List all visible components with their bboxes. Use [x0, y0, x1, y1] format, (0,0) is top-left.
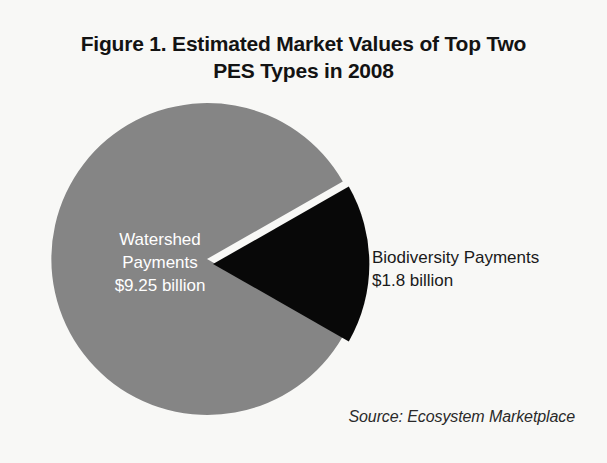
pie-label-biodiversity-name: Biodiversity Payments [372, 246, 539, 269]
figure-container: Figure 1. Estimated Market Values of Top… [0, 0, 607, 463]
pie-label-watershed-name-line2: Payments [85, 251, 235, 274]
pie-label-watershed: Watershed Payments $9.25 billion [85, 228, 235, 297]
source-note: Source: Ecosystem Marketplace [348, 408, 575, 426]
pie-label-biodiversity: Biodiversity Payments $1.8 billion [372, 246, 539, 292]
pie-label-biodiversity-value: $1.8 billion [372, 269, 539, 292]
pie-chart: Watershed Payments $9.25 billion Biodive… [0, 0, 607, 463]
pie-label-watershed-name-line1: Watershed [85, 228, 235, 251]
pie-label-watershed-value: $9.25 billion [85, 274, 235, 297]
